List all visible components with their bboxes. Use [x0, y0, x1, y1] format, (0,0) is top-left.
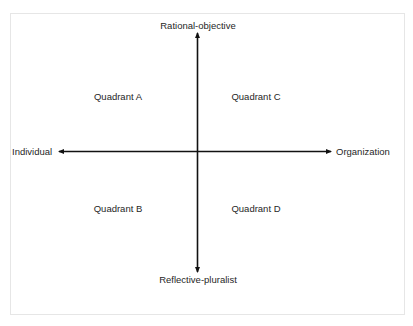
- quadrant-c-label: Quadrant C: [231, 91, 280, 102]
- axis-label-bottom: Reflective-pluralist: [159, 274, 237, 285]
- axis-label-right: Organization: [336, 146, 390, 157]
- axis-label-top: Rational-objective: [160, 20, 236, 31]
- axis-label-left: Individual: [12, 146, 52, 157]
- quadrant-a-label: Quadrant A: [94, 91, 142, 102]
- quadrant-b-label: Quadrant B: [94, 203, 143, 214]
- quadrant-d-label: Quadrant D: [231, 203, 280, 214]
